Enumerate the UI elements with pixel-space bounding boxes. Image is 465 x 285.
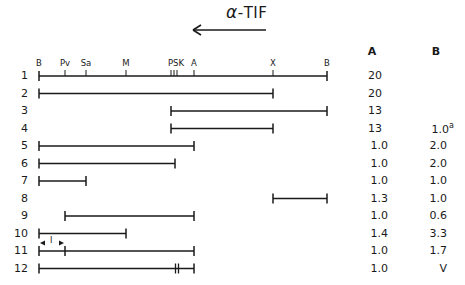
footnote-marker: a bbox=[449, 120, 454, 129]
value-a: 13 bbox=[350, 104, 382, 117]
restriction-site-label: B bbox=[36, 58, 42, 68]
value-a: 1.0 bbox=[356, 244, 388, 257]
row-number: 10 bbox=[14, 226, 28, 239]
restriction-site-label: M bbox=[122, 58, 129, 68]
row-number: 6 bbox=[14, 156, 28, 169]
value-a: 1.3 bbox=[356, 191, 388, 204]
row-number: 4 bbox=[14, 121, 28, 134]
left-triangle-icon bbox=[40, 241, 45, 246]
column-header-b: B bbox=[432, 45, 440, 58]
value-a: 13 bbox=[350, 121, 382, 134]
column-header-a: A bbox=[368, 45, 377, 58]
row-number: 7 bbox=[14, 174, 28, 187]
value-b: V bbox=[415, 261, 447, 274]
value-a: 1.0 bbox=[356, 209, 388, 222]
restriction-site-label: PSK bbox=[168, 58, 184, 68]
restriction-site-label: X bbox=[270, 58, 276, 68]
value-a: 1.4 bbox=[356, 226, 388, 239]
value-b: 2.0 bbox=[415, 156, 447, 169]
row-number: 2 bbox=[14, 86, 28, 99]
value-b: 2.0 bbox=[415, 139, 447, 152]
restriction-site-label: B bbox=[324, 58, 330, 68]
value-b: 1.0a bbox=[422, 120, 454, 135]
value-a: 20 bbox=[350, 69, 382, 82]
value-a: 1.0 bbox=[356, 139, 388, 152]
value-b: 0.6 bbox=[415, 209, 447, 222]
value-a: 1.0 bbox=[356, 261, 388, 274]
restriction-site-label: Pv bbox=[60, 58, 70, 68]
value-b: 1.7 bbox=[415, 244, 447, 257]
value-a: 20 bbox=[350, 86, 382, 99]
value-b: 1.0 bbox=[415, 191, 447, 204]
value-b: 1.0 bbox=[415, 174, 447, 187]
row-number: 11 bbox=[14, 244, 28, 257]
restriction-site-label: A bbox=[191, 58, 197, 68]
row-number: 8 bbox=[14, 191, 28, 204]
value-b: 3.3 bbox=[415, 226, 447, 239]
restriction-map-diagram bbox=[0, 0, 465, 285]
row-number: 1 bbox=[14, 69, 28, 82]
row-number: 12 bbox=[14, 261, 28, 274]
row-number: 3 bbox=[14, 104, 28, 117]
row-number: 5 bbox=[14, 139, 28, 152]
insert-label: I bbox=[50, 236, 52, 245]
row-number: 9 bbox=[14, 209, 28, 222]
value-a: 1.0 bbox=[356, 174, 388, 187]
restriction-site-label: Sa bbox=[81, 58, 92, 68]
right-triangle-icon bbox=[59, 241, 64, 246]
value-a: 1.0 bbox=[356, 156, 388, 169]
